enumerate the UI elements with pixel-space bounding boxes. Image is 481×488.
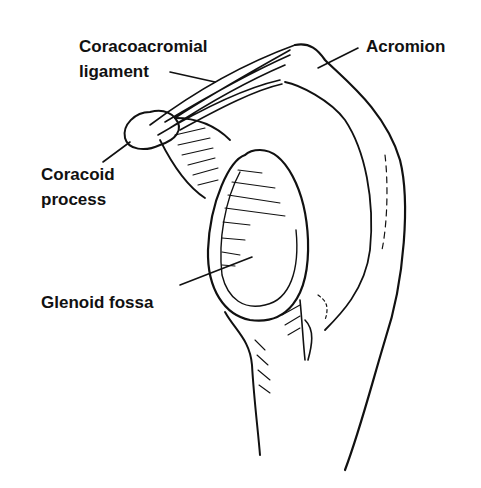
coracoacromial-ligament [150,45,295,135]
leader-coracoid [103,142,130,162]
label-coracoid: Coracoid [41,165,115,184]
acromion-inner [285,82,371,330]
label-ligament: ligament [79,62,149,81]
label-acromion: Acromion [366,37,445,56]
acromion-outline [295,44,405,470]
coracoid-outline [125,111,179,149]
label-process: process [41,190,106,209]
scapula-drawing [0,0,481,488]
leader-glenoid [180,257,252,285]
shoulder-diagram: Coracoacromial ligament Acromion Coracoi… [0,0,481,488]
glenoid-outline [208,150,308,321]
glenoid-hatching [222,170,285,266]
label-glenoid-fossa: Glenoid fossa [41,293,153,312]
leader-coracoacromial [170,72,215,82]
label-coracoacromial: Coracoacromial [79,37,208,56]
scapula-lateral-border [225,312,260,455]
